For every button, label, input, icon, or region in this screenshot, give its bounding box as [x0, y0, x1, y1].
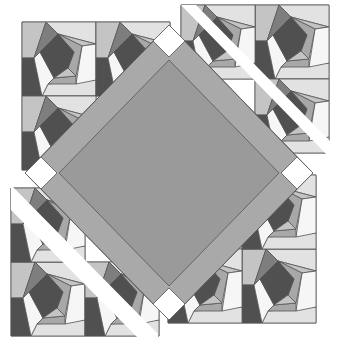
- quilt-pattern: [0, 0, 343, 357]
